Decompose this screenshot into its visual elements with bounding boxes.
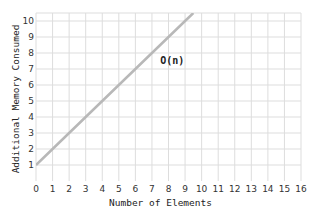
x-tick-label: 9 xyxy=(182,184,188,194)
y-axis-label: Additional Memory Consumed xyxy=(10,25,21,174)
complexity-annotation: O(n) xyxy=(160,55,184,66)
x-tick-label: 8 xyxy=(166,184,172,194)
data-series xyxy=(36,13,193,165)
y-tick-label: 5 xyxy=(28,96,34,106)
x-tick-label: 16 xyxy=(295,184,307,194)
y-tick-label: 6 xyxy=(28,80,34,90)
x-tick-label: 1 xyxy=(50,184,56,194)
x-tick-label: 5 xyxy=(116,184,122,194)
y-tick-label: 3 xyxy=(28,128,34,138)
x-tick-label: 12 xyxy=(229,184,240,194)
y-tick-label: 7 xyxy=(28,64,34,74)
chart: 012345678910111213141516 12345678910 O(n… xyxy=(0,0,312,215)
y-tick-label: 2 xyxy=(28,144,34,154)
line-series-on xyxy=(36,13,193,165)
x-tick-label: 7 xyxy=(149,184,155,194)
x-tick-label: 14 xyxy=(262,184,274,194)
y-axis-ticks: 12345678910 xyxy=(23,16,35,170)
x-tick-label: 15 xyxy=(279,184,290,194)
y-tick-label: 1 xyxy=(28,160,34,170)
y-tick-label: 10 xyxy=(23,16,35,26)
x-tick-label: 4 xyxy=(99,184,105,194)
x-axis-label: Number of Elements xyxy=(109,197,212,208)
y-tick-label: 4 xyxy=(28,112,34,122)
x-tick-label: 10 xyxy=(196,184,208,194)
x-tick-label: 3 xyxy=(83,184,89,194)
y-tick-label: 9 xyxy=(28,32,34,42)
x-tick-label: 13 xyxy=(246,184,257,194)
x-tick-label: 6 xyxy=(133,184,139,194)
x-tick-label: 2 xyxy=(66,184,72,194)
x-axis-ticks: 012345678910111213141516 xyxy=(33,184,307,194)
y-tick-label: 8 xyxy=(28,48,34,58)
x-tick-label: 11 xyxy=(212,184,223,194)
x-tick-label: 0 xyxy=(33,184,39,194)
